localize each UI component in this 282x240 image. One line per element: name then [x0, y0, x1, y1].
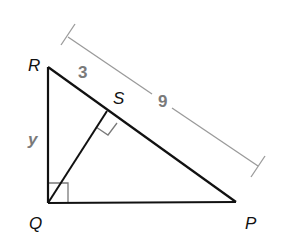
length-label-rq: y: [27, 130, 39, 149]
altitude-qs: [48, 111, 107, 203]
vertex-label-s: S: [113, 89, 125, 108]
dimension-tick-end: [251, 156, 265, 177]
length-label-rs: 3: [78, 63, 87, 82]
vertex-label-q: Q: [29, 214, 42, 233]
dimension-tick-start: [61, 24, 75, 45]
triangle-diagram: R S Q P 3 9 y: [0, 0, 282, 240]
length-label-rp: 9: [158, 92, 167, 111]
vertex-label-r: R: [28, 56, 40, 75]
side-qp: [48, 202, 236, 203]
vertex-label-p: P: [245, 214, 257, 233]
